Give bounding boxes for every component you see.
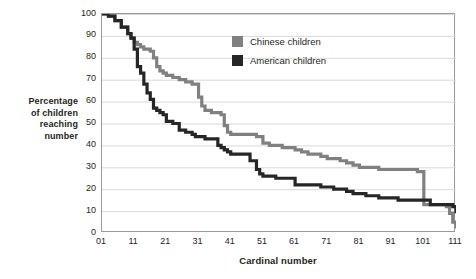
y-axis-title-line-3: reaching [6, 119, 78, 131]
x-tick-label: 01 [84, 236, 118, 247]
legend-label: American children [250, 55, 326, 66]
x-tick-label: 71 [309, 236, 343, 247]
x-axis-tick-labels: 01112131415161718191101111 [0, 236, 476, 250]
legend-label: Chinese children [250, 36, 321, 47]
legend-item: Chinese children [232, 33, 350, 49]
legend-swatch-chinese [232, 36, 243, 47]
y-tick-label: 20 [70, 184, 96, 193]
y-tick-label: 70 [70, 74, 96, 83]
y-axis-title-line-4: number [6, 131, 78, 143]
x-tick-label: 101 [406, 236, 440, 247]
y-tick-label: 90 [70, 30, 96, 39]
y-axis-title-line-2: of children [6, 108, 78, 120]
x-tick-label: 61 [277, 236, 311, 247]
x-tick-label: 31 [181, 236, 215, 247]
x-tick-label: 111 [438, 236, 472, 247]
chart-figure: Percentage of children reaching number 0… [0, 0, 476, 279]
x-tick-label: 21 [148, 236, 182, 247]
x-tick-label: 11 [116, 236, 150, 247]
x-tick-label: 81 [341, 236, 375, 247]
x-tick-label: 91 [374, 236, 408, 247]
legend-item: American children [232, 52, 350, 68]
y-tick-label: 40 [70, 140, 96, 149]
y-tick-label: 30 [70, 162, 96, 171]
x-tick-label: 51 [245, 236, 279, 247]
chart-legend: Chinese childrenAmerican children [232, 33, 350, 71]
y-tick-label: 80 [70, 52, 96, 61]
y-tick-label: 60 [70, 96, 96, 105]
y-axis-title-line-1: Percentage [6, 96, 78, 108]
y-axis-title: Percentage of children reaching number [6, 96, 78, 142]
legend-swatch-american [232, 55, 243, 66]
y-tick-label: 50 [70, 118, 96, 127]
x-axis-title: Cardinal number [101, 255, 455, 266]
y-tick-label: 100 [70, 9, 96, 18]
y-tick-label: 10 [70, 206, 96, 215]
x-tick-label: 41 [213, 236, 247, 247]
